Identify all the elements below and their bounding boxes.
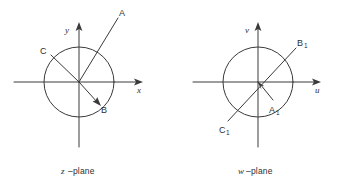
ray-B-line [79, 82, 98, 103]
w-plane-caption: w –plane [238, 166, 273, 176]
ray-B1-C1-line [228, 48, 296, 121]
ray-C1-label-group: C 1 [219, 125, 230, 136]
v-axis-label: v [245, 25, 249, 35]
ray-A-label: A [119, 8, 125, 18]
u-axis-label: u [315, 85, 320, 95]
ray-C-line [51, 55, 79, 82]
z-plane-caption-variable: z [60, 166, 65, 176]
ray-B1-label-group: B 1 [297, 38, 308, 49]
w-plane-panel: u v B 1 C 1 A 1 [193, 22, 321, 176]
z-plane-caption-suffix: –plane [68, 166, 95, 176]
w-plane-caption-variable: w [238, 166, 244, 176]
ray-C1-label: C [219, 125, 226, 135]
ray-B-label: B [101, 105, 107, 115]
ray-B1-label-subscript: 1 [304, 42, 308, 49]
x-axis-label: x [136, 85, 141, 95]
complex-plane-figure: x y A B C z –plane [0, 0, 340, 186]
z-plane-panel: x y A B C z –plane [14, 8, 143, 176]
w-plane-caption-suffix: –plane [246, 166, 273, 176]
ray-C-label: C [40, 46, 47, 56]
ray-C1-label-subscript: 1 [226, 129, 230, 136]
figure-canvas: x y A B C z –plane [0, 0, 340, 186]
ray-A1-label-subscript: 1 [276, 109, 280, 116]
ray-A1-line [260, 84, 273, 100]
z-plane-caption: z –plane [60, 166, 95, 176]
ray-B1-label: B [297, 38, 303, 48]
ray-A1-label: A [269, 105, 275, 115]
y-axis-label: y [64, 25, 69, 35]
ray-A1-label-group: A 1 [269, 105, 280, 116]
